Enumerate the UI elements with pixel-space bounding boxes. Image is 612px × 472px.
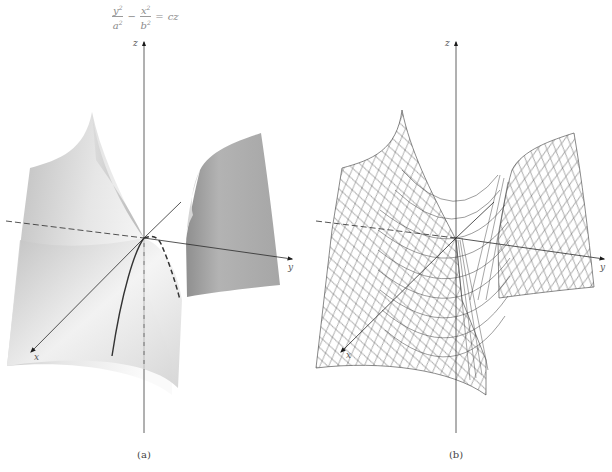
x-axis-label-a: x	[34, 352, 39, 362]
y-axis-label-a: y	[288, 262, 293, 272]
caption-a: (a)	[137, 449, 151, 460]
x-axis-a-back	[144, 202, 181, 238]
panel-b-wireframe-surface	[316, 42, 604, 433]
mesh-right-wing	[498, 133, 594, 298]
figure: y2 a2 − x2 b2 = cz	[0, 0, 612, 472]
x-axis-label-b: x	[346, 350, 351, 360]
surface-right-wing	[186, 133, 280, 297]
z-axis-label-b: z	[445, 38, 450, 48]
figure-canvas	[0, 0, 612, 472]
x-axis-b-back	[456, 202, 494, 238]
panel-a-shaded-surface	[6, 42, 292, 433]
z-axis-label-a: z	[133, 38, 138, 48]
caption-b: (b)	[449, 449, 463, 460]
mesh-left-wing	[316, 110, 486, 395]
y-axis-label-b: y	[600, 262, 605, 272]
